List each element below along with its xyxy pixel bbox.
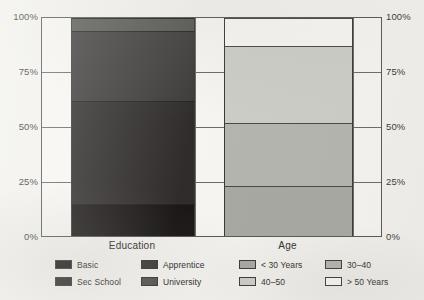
bar-segment-40-50[interactable] — [224, 46, 353, 122]
y-axis-left-tick-0: 0% — [24, 231, 38, 242]
bar-segment-apprentice[interactable] — [71, 31, 195, 101]
legend-label-over-50: > 50 Years — [347, 277, 388, 287]
bar-segment-30-40[interactable] — [224, 123, 353, 186]
legend-item-over-50[interactable]: > 50 Years — [325, 277, 411, 287]
y-axis-left-tick-100: 100% — [13, 11, 38, 22]
legend-label-30-40: 30–40 — [347, 260, 371, 270]
legend-item-university[interactable]: University — [141, 277, 239, 287]
legend-swatch-university — [141, 277, 158, 286]
legend-swatch-sec-school — [55, 277, 72, 286]
category-separator-4 — [353, 18, 354, 236]
legend-item-under-30[interactable]: < 30 Years — [239, 260, 325, 270]
x-axis-label-education: Education — [70, 240, 194, 251]
y-axis-left-tick-25: 25% — [19, 176, 38, 187]
legend-swatch-apprentice — [141, 260, 158, 269]
legend-swatch-under-30 — [239, 260, 256, 269]
y-axis-left-tick-50: 50% — [19, 121, 38, 132]
plot-area — [41, 17, 382, 237]
legend-swatch-30-40 — [325, 260, 342, 269]
legend-swatch-40-50 — [239, 277, 256, 286]
legend-label-40-50: 40–50 — [261, 277, 285, 287]
bar-segment-university[interactable] — [71, 18, 195, 31]
y-axis-left-tick-75: 75% — [19, 66, 38, 77]
legend-label-apprentice: Apprentice — [163, 260, 205, 270]
legend-swatch-over-50 — [325, 277, 342, 286]
bar-education[interactable] — [71, 18, 195, 236]
bar-segment-basic[interactable] — [71, 204, 195, 236]
legend-item-basic[interactable]: Basic — [55, 260, 141, 270]
legend-label-sec-school: Sec School — [77, 277, 121, 287]
legend-swatch-basic — [55, 260, 72, 269]
legend-item-apprentice[interactable]: Apprentice — [141, 260, 239, 270]
y-axis-right-tick-100: 100% — [386, 11, 411, 22]
bar-segment-sec-school[interactable] — [71, 101, 195, 205]
chart-page: 100% 75% 50% 25% 0% 100% 75% 50% 25% 0% … — [0, 0, 424, 300]
bar-age[interactable] — [224, 18, 353, 236]
legend-item-sec-school[interactable]: Sec School — [55, 277, 141, 287]
legend-item-30-40[interactable]: 30–40 — [325, 260, 411, 270]
legend-label-basic: Basic — [77, 260, 98, 270]
x-axis-label-age: Age — [223, 240, 352, 251]
legend-label-university: University — [163, 277, 201, 287]
legend-label-under-30: < 30 Years — [261, 260, 302, 270]
y-axis-right-tick-50: 50% — [386, 121, 405, 132]
legend: Basic Apprentice < 30 Years 30–40 Sec Sc… — [55, 256, 385, 290]
y-axis-right-tick-25: 25% — [386, 176, 405, 187]
bar-segment-under-30[interactable] — [224, 186, 353, 236]
bar-segment-over-50[interactable] — [224, 18, 353, 46]
y-axis-right-tick-75: 75% — [386, 66, 405, 77]
legend-item-40-50[interactable]: 40–50 — [239, 277, 325, 287]
category-separator-2 — [195, 18, 196, 236]
y-axis-right-tick-0: 0% — [386, 231, 400, 242]
